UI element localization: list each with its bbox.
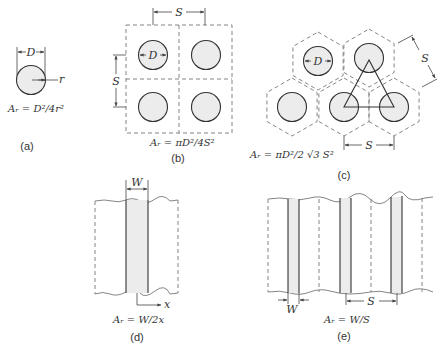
dim-s-label: S [367,295,375,308]
s-diag-arrow-bottom [428,65,435,78]
formula-d: Aᵣ = W/2x [112,314,164,325]
dim-s-bottom-label: S [365,139,373,152]
panel-d: W x Aᵣ = W/2x (d) [95,176,178,343]
dim-s-top-label: S [175,6,183,19]
panel-a: D r Aᵣ = D²/4r² (a) [7,46,65,152]
dim-r-label: r [59,73,65,86]
fiber-circle [355,44,384,73]
s-diag-ext-top [398,35,413,43]
panel-label-d: (d) [130,331,143,343]
axis-x-label: x [164,298,171,311]
fiber-strip [340,198,351,293]
dim-d-label: D [26,46,36,59]
diagram-canvas: D r Aᵣ = D²/4r² (a) S S D Aᵣ = πD²/4S² (… [0,0,442,353]
panel-label-b: (b) [171,152,184,164]
panel-b: S S D Aᵣ = πD²/4S² (b) [112,6,232,164]
dim-d-label: D [313,55,323,68]
formula-b: Aᵣ = πD²/4S² [149,137,215,148]
formula-e: Aᵣ = W/S [323,314,370,325]
fiber-strip [288,199,299,293]
fiber-circle [278,93,307,122]
s-diag-ext-bottom [422,79,437,87]
formula-a: Aᵣ = D²/4r² [7,103,64,114]
dim-d-label: D [148,49,158,62]
formula-c: Aᵣ = πD²/2 √3 S² [249,149,334,160]
panel-e: W S Aᵣ = W/S (e) [268,192,433,342]
fiber-strip [126,200,148,293]
fiber-circle [139,93,168,122]
panel-label-a: (a) [20,140,33,152]
fiber-strip [391,197,402,293]
fiber-circle [192,93,221,122]
s-diag-arrow-top [412,37,419,50]
dim-w-label: W [286,303,299,316]
panel-label-e: (e) [337,330,350,342]
fiber-circle [192,41,221,70]
panel-c: D S S Aᵣ = πD²/2 √3 S² (c) [249,29,437,181]
dim-s-left-label: S [112,75,120,88]
dim-s-diag-label: S [421,52,429,65]
panel-label-c: (c) [338,169,351,181]
dim-w-label: W [131,176,144,189]
